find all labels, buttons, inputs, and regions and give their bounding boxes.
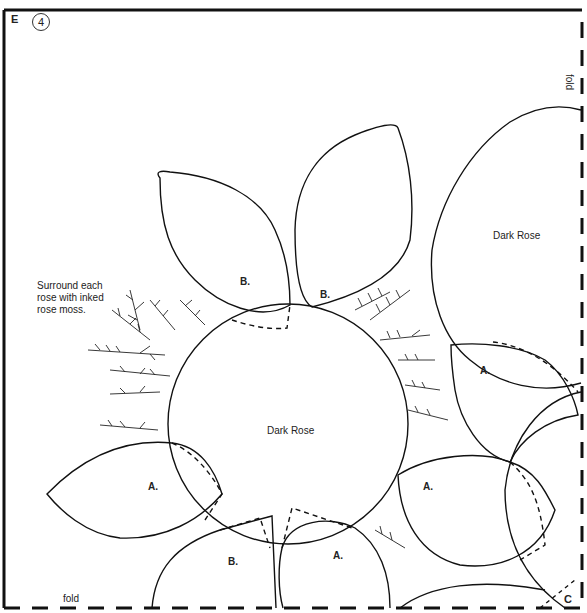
- leaf-bottom-center-label: A.: [333, 550, 343, 561]
- rose-center-outline: [168, 304, 408, 544]
- sheet-letter: E: [11, 13, 18, 25]
- rose-moss-group: [88, 288, 448, 548]
- leaf-bottom-left-tab: [220, 518, 270, 548]
- leaf-top-left-label: B.: [240, 276, 250, 287]
- leaf-bottom-left-label: B.: [228, 556, 238, 567]
- leaf-right-upper-outline: [451, 344, 578, 462]
- corner-label-c: C: [564, 593, 572, 605]
- rose-center-label: Dark Rose: [267, 425, 314, 436]
- leaf-right-lower-outline: [398, 456, 555, 566]
- leaf-left-label: A.: [148, 481, 158, 492]
- leaf-right-upper-label: A.: [480, 365, 490, 376]
- rose-top-right-outline: [431, 107, 581, 388]
- leaf-right-upper-tab: [493, 342, 578, 392]
- leaf-right-lower-label: A.: [423, 481, 433, 492]
- rose-lower-right-outline: [505, 392, 581, 608]
- step-number-badge: 4: [32, 13, 50, 31]
- rose-top-right-label: Dark Rose: [493, 230, 540, 241]
- instruction-note: Surround each rose with inked rose moss.: [37, 280, 104, 316]
- leaf-left-outline: [47, 442, 222, 538]
- leaf-left-tab: [172, 443, 222, 520]
- leaf-top-right-outline: [295, 125, 412, 307]
- leaf-top-right-label: B.: [320, 289, 330, 300]
- pattern-sheet: E 4 fold fold C Surround each rose with …: [0, 0, 587, 613]
- leaf-bottom-center-tab: [282, 508, 352, 548]
- rose-bottom-right-outline: [400, 584, 545, 608]
- leaf-top-left-outline: [158, 171, 290, 312]
- fold-label-right: fold: [564, 74, 575, 90]
- fold-label-bottom: fold: [63, 593, 79, 604]
